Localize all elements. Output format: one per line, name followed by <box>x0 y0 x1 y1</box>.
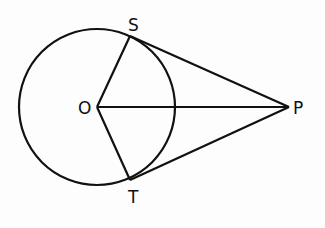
tangent-ps <box>130 36 289 107</box>
radius-os <box>97 36 130 107</box>
tangent-pt <box>130 107 289 180</box>
radius-ot <box>97 107 130 180</box>
label-s: S <box>128 15 139 35</box>
label-p: P <box>293 98 303 118</box>
label-t: T <box>127 187 139 207</box>
label-o: O <box>78 98 91 118</box>
geometry-figure: O S T P <box>0 0 325 228</box>
diagram: O S T P <box>0 0 325 228</box>
